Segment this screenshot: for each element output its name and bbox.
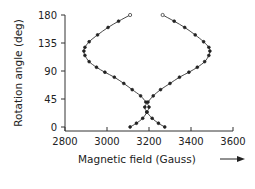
data-point (196, 66, 199, 69)
data-point (207, 54, 210, 57)
chart: 04590135180 28003000320034003600 Rotatio… (0, 0, 255, 189)
data-point (194, 34, 197, 37)
data-point (173, 20, 176, 23)
y-axis-title: Rotation angle (deg) (12, 19, 24, 127)
data-point (95, 66, 98, 69)
data-point (113, 76, 116, 79)
y-tick-label: 90 (44, 66, 57, 77)
data-point (151, 117, 154, 120)
series-group (83, 13, 212, 128)
data-point (178, 76, 181, 79)
data-point (122, 82, 125, 85)
data-point (188, 71, 191, 74)
data-point (96, 34, 99, 37)
data-point (143, 106, 146, 109)
y-ticks: 04590135180 (38, 10, 65, 133)
data-point (129, 126, 132, 129)
data-point (131, 88, 134, 91)
curve-branch-1 (84, 15, 149, 127)
x-axis-title: Magnetic field (Gauss) (78, 153, 196, 165)
data-point (83, 50, 86, 53)
data-point (203, 60, 206, 63)
x-tick-label: 2800 (52, 136, 77, 147)
data-point (152, 94, 155, 97)
data-point (207, 46, 210, 49)
x-tick-label: 3000 (94, 136, 119, 147)
data-point (147, 101, 150, 104)
data-point (129, 13, 132, 16)
data-point (139, 94, 142, 97)
y-tick-label: 45 (44, 94, 57, 105)
data-point (88, 40, 91, 43)
data-point (157, 122, 160, 125)
data-point (183, 26, 186, 29)
y-tick-label: 135 (38, 38, 57, 49)
data-point (107, 26, 110, 29)
data-point (146, 111, 149, 114)
data-point (163, 126, 166, 129)
axes (65, 15, 233, 131)
data-point (202, 40, 205, 43)
y-tick-label: 180 (38, 10, 57, 21)
x-tick-label: 3200 (136, 136, 161, 147)
x-tick-label: 3600 (220, 136, 245, 147)
data-point (84, 46, 87, 49)
x-ticks: 28003000320034003600 (52, 127, 245, 147)
y-tick-label: 0 (51, 122, 57, 133)
data-point (84, 54, 87, 57)
data-point (209, 50, 212, 53)
right-arrow-icon (220, 156, 245, 162)
x-tick-label: 3400 (178, 136, 203, 147)
data-point (117, 20, 120, 23)
data-point (148, 106, 151, 109)
data-point (104, 71, 107, 74)
data-point (169, 82, 172, 85)
data-point (88, 60, 91, 63)
data-point (161, 13, 164, 16)
data-point (141, 117, 144, 120)
data-point (159, 88, 162, 91)
data-point (135, 122, 138, 125)
curve-branch-2 (145, 15, 210, 127)
